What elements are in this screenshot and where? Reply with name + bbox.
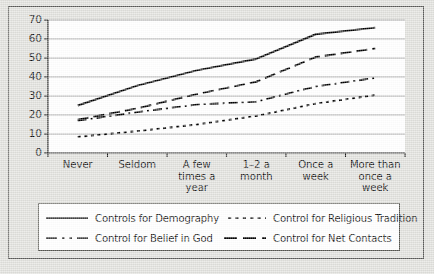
legend-swatch-solid (45, 213, 89, 223)
legend-swatch-long-dash (223, 233, 267, 243)
x-tick-label: 1–2 a month (227, 159, 287, 182)
y-tick-label: 10 (10, 127, 42, 139)
x-tick-label: Seldom (108, 159, 168, 171)
legend-label-control-for-religious-tradition: Control for Religious Tradition (273, 213, 418, 224)
legend-swatch-dash-dot (45, 233, 89, 243)
legend-item-control-for-net-contacts: Control for Net Contacts (223, 233, 401, 244)
y-tick-label: 60 (10, 32, 42, 44)
x-axis-ticks (48, 153, 405, 157)
legend-label-controls-for-demography: Controls for Demography (95, 213, 219, 224)
x-tick-label: A few times a year (167, 159, 227, 194)
plot-background (48, 20, 405, 153)
legend-item-control-for-religious-tradition: Control for Religious Tradition (223, 213, 401, 224)
legend-item-controls-for-demography: Controls for Demography (45, 213, 223, 224)
legend-swatch-dotted (223, 213, 267, 223)
legend-label-control-for-belief-in-god: Control for Belief in God (95, 233, 213, 244)
figure-container: 010203040506070 NeverSeldomA few times a… (0, 0, 434, 274)
legend-item-control-for-belief-in-god: Control for Belief in God (45, 233, 223, 244)
y-tick-label: 0 (10, 146, 42, 158)
y-tick-label: 30 (10, 89, 42, 101)
x-tick-label: More than once a week (346, 159, 406, 194)
chart-legend: Controls for Demography Control for Reli… (38, 203, 400, 251)
y-tick-label: 70 (10, 13, 42, 25)
legend-label-control-for-net-contacts: Control for Net Contacts (273, 233, 392, 244)
y-tick-label: 40 (10, 70, 42, 82)
y-tick-label: 50 (10, 51, 42, 63)
legend-grid: Controls for Demography Control for Reli… (45, 208, 393, 248)
x-tick-label: Never (48, 159, 108, 171)
x-tick-label: Once a week (286, 159, 346, 182)
y-tick-label: 20 (10, 108, 42, 120)
